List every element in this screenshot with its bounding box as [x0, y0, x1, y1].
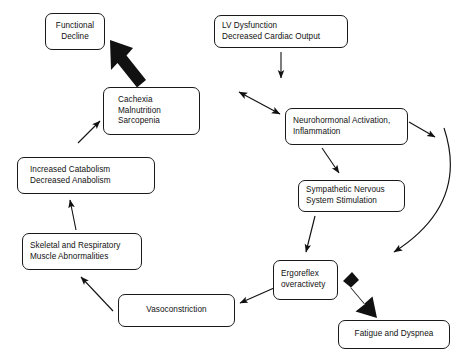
- node-sympathetic-nervous[interactable]: Sympathetic Nervous System Stimulation: [298, 180, 405, 212]
- node-fatigue-dyspnea[interactable]: Fatigue and Dyspnea: [338, 320, 450, 349]
- edge-vasoconstriction-to-skeletal: [81, 277, 113, 311]
- node-neurohormonal-activation[interactable]: Neurohormonal Activation, Inflammation: [285, 108, 408, 145]
- node-line: Cachexia: [118, 95, 192, 106]
- edge-neurohormonal-right-stub: [409, 122, 435, 137]
- node-ergoreflex[interactable]: Ergoreflex overactivety: [273, 260, 338, 300]
- edge-skeletal-to-catabolism: [70, 200, 76, 230]
- node-line: Inflammation: [293, 127, 400, 138]
- node-cachexia[interactable]: Cachexia Malnutrition Sarcopenia: [103, 87, 200, 135]
- node-line: Sarcopenia: [118, 116, 192, 127]
- node-lv-dysfunction[interactable]: LV Dysfunction Decreased Cardiac Output: [214, 15, 348, 48]
- node-increased-catabolism[interactable]: Increased Catabolism Decreased Anabolism: [17, 157, 155, 194]
- node-line: Neurohormonal Activation,: [293, 116, 400, 127]
- edge-ergoreflex-to-fatigue: [343, 272, 377, 318]
- node-line: Malnutrition: [118, 106, 192, 117]
- node-line: Skeletal and Respiratory: [30, 241, 134, 252]
- node-line: Increased Catabolism: [30, 165, 147, 176]
- node-line: Functional: [56, 21, 94, 32]
- node-line: Sympathetic Nervous: [306, 185, 397, 196]
- node-skeletal-respiratory[interactable]: Skeletal and Respiratory Muscle Abnormal…: [22, 233, 142, 270]
- node-line: overactivety: [281, 280, 330, 291]
- flowchart-diagram: Functional Decline LV Dysfunction Decrea…: [0, 0, 460, 355]
- edge-catabolism-to-cachexia: [78, 121, 100, 143]
- edge-cachexia-neurohormonal-bidirectional: [239, 92, 280, 114]
- node-line: Ergoreflex: [281, 269, 330, 280]
- edge-cachexia-to-functional-decline: [110, 40, 146, 88]
- node-line: Decline: [61, 32, 89, 43]
- node-line: Fatigue and Dyspnea: [355, 329, 434, 340]
- node-functional-decline[interactable]: Functional Decline: [45, 13, 105, 50]
- node-line: LV Dysfunction: [222, 21, 340, 32]
- edge-ergoreflex-to-vasoconstriction: [240, 288, 274, 303]
- node-line: Decreased Cardiac Output: [222, 32, 340, 43]
- node-vasoconstriction[interactable]: Vasoconstriction: [118, 294, 235, 327]
- node-line: System Stimulation: [306, 196, 397, 207]
- edge-neurohormonal-to-sympathetic: [322, 148, 339, 173]
- node-line: Vasoconstriction: [146, 305, 206, 316]
- node-line: Muscle Abnormalities: [30, 252, 134, 263]
- node-line: Decreased Anabolism: [30, 176, 147, 187]
- edge-sympathetic-to-ergoreflex: [306, 216, 315, 252]
